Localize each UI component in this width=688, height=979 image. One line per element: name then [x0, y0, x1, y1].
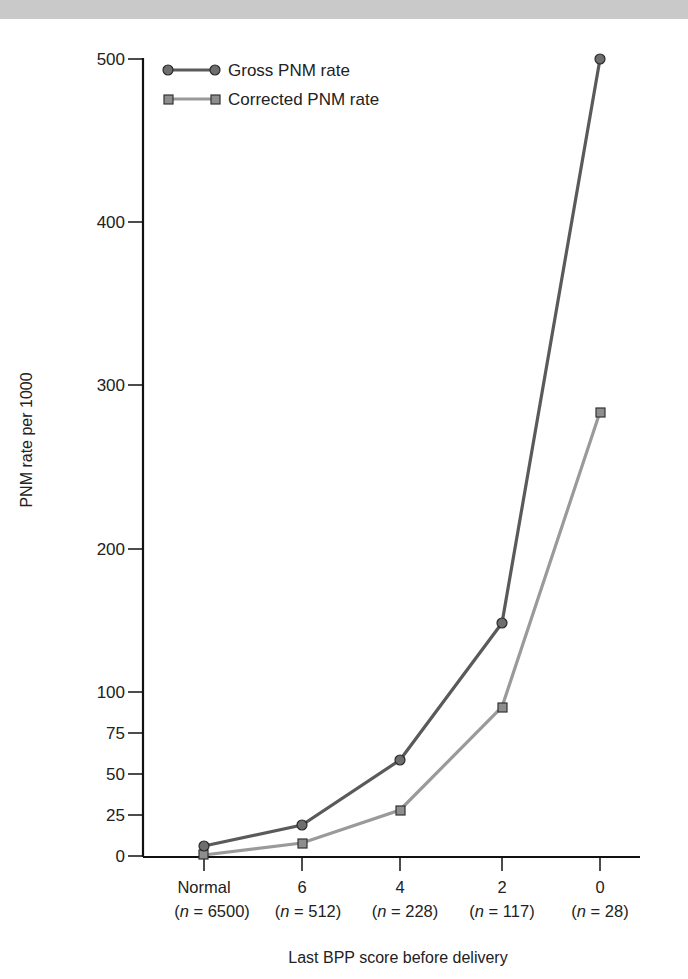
- legend-gross: Gross PNM rate: [163, 61, 350, 80]
- square-marker-icon: [164, 95, 173, 104]
- x-n-2: (n = 117): [469, 902, 534, 920]
- x-tick-normal: Normal: [177, 878, 230, 896]
- y-tick-500: 500: [97, 50, 125, 69]
- legend-corrected-label: Corrected PNM rate: [228, 90, 379, 109]
- y-tick-0: 0: [116, 847, 125, 866]
- y-tick-400: 400: [97, 213, 125, 232]
- x-axis-title: Last BPP score before delivery: [288, 949, 507, 966]
- y-tick-75: 75: [106, 724, 125, 743]
- x-tick-labels: Normal 6 4 2 0 (n = 6500) (n = 512) (n =…: [174, 878, 629, 920]
- x-ticks: [204, 857, 600, 871]
- y-axis-title: PNM rate per 1000: [18, 372, 35, 507]
- y-tick-200: 200: [97, 540, 125, 559]
- y-tick-300: 300: [97, 376, 125, 395]
- y-tick-50: 50: [106, 765, 125, 784]
- y-ticks: [128, 59, 143, 856]
- series-corrected: [199, 408, 605, 859]
- x-tick-2: 2: [497, 878, 506, 896]
- legend-gross-label: Gross PNM rate: [228, 61, 350, 80]
- legend-corrected: Corrected PNM rate: [164, 90, 379, 109]
- legend: Gross PNM rate Corrected PNM rate: [163, 61, 379, 109]
- series-gross: [199, 54, 605, 851]
- x-n-0: (n = 28): [571, 902, 628, 920]
- y-tick-100: 100: [97, 683, 125, 702]
- x-tick-4: 4: [395, 878, 404, 896]
- x-n-4: (n = 228): [372, 902, 439, 920]
- x-n-normal: (n = 6500): [174, 902, 250, 920]
- pnm-rate-chart: 500 400 300 200 100 75 50 25 0 Normal 6 …: [0, 0, 688, 979]
- y-tick-25: 25: [106, 806, 125, 825]
- circle-marker-icon: [163, 65, 173, 75]
- x-tick-0: 0: [595, 878, 604, 896]
- y-tick-labels: 500 400 300 200 100 75 50 25 0: [97, 50, 125, 866]
- x-n-6: (n = 512): [275, 902, 342, 920]
- x-tick-6: 6: [297, 878, 306, 896]
